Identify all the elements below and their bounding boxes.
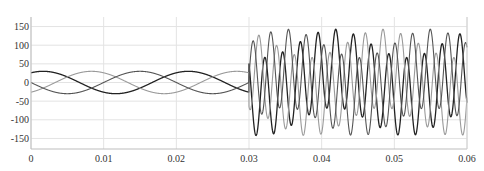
x-tick-label: 0.06: [458, 153, 476, 164]
x-tick-label: 0.01: [95, 153, 113, 164]
y-tick-label: -50: [16, 96, 29, 107]
x-tick-label: 0.05: [386, 153, 404, 164]
y-tick-label: -150: [11, 133, 29, 144]
x-tick-label: 0.03: [240, 153, 258, 164]
line-chart: 150100500-50-100-150 00.010.020.030.040.…: [0, 0, 484, 171]
x-tick-label: 0: [29, 153, 34, 164]
x-tick-label: 0.02: [168, 153, 186, 164]
y-axis-tick-labels: 150100500-50-100-150: [11, 21, 29, 144]
y-tick-label: 0: [24, 77, 29, 88]
y-tick-label: 150: [14, 21, 29, 32]
y-tick-label: -100: [11, 114, 29, 125]
y-tick-label: 100: [14, 40, 29, 51]
x-axis-tick-labels: 00.010.020.030.040.050.06: [29, 153, 476, 164]
y-tick-label: 50: [19, 58, 29, 69]
x-tick-label: 0.04: [313, 153, 331, 164]
